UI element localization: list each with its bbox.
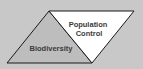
population-label: Population bbox=[69, 20, 108, 29]
biodiversity-label: Biodiversity bbox=[30, 44, 74, 53]
parallelogram-diagram: Biodiversity Population Control bbox=[0, 0, 143, 69]
control-label: Control bbox=[76, 29, 103, 38]
